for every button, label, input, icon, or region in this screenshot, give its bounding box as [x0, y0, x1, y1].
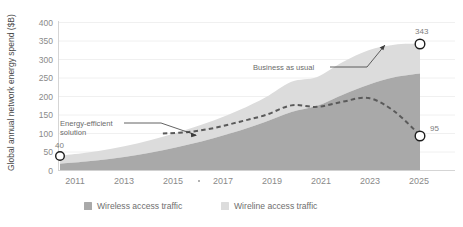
- legend-label-wireless: Wireless access traffic: [97, 201, 183, 211]
- plot-areas: [60, 44, 420, 171]
- y-tick-150: 150: [39, 110, 53, 120]
- annotation-energy-efficient-line1: Energy-efficient: [60, 119, 114, 128]
- y-axis-ticks: 400 350 300 250 200 150 100 50 0: [39, 18, 53, 176]
- y-tick-100: 100: [39, 129, 53, 139]
- x-tick-2015: 2015: [163, 176, 183, 186]
- marker-end-95: [415, 131, 425, 141]
- annotation-business-as-usual-label: Business as usual: [253, 63, 315, 72]
- x-tick-2023: 2023: [360, 176, 380, 186]
- x-tick-2025: 2025: [409, 176, 429, 186]
- legend-label-wireline: Wireline access traffic: [234, 201, 318, 211]
- y-tick-300: 300: [39, 55, 53, 65]
- energy-spend-area-chart: Global annual network energy spend ($B) …: [0, 0, 463, 227]
- point-label-40: 40: [55, 141, 64, 150]
- marker-start-40: [56, 152, 65, 161]
- point-label-95: 95: [430, 124, 439, 133]
- x-tick-2019: 2019: [262, 176, 282, 186]
- y-tick-0: 0: [48, 166, 53, 176]
- annotation-energy-efficient-line2: solution: [60, 128, 86, 137]
- chart-container: Global annual network energy spend ($B) …: [0, 0, 463, 227]
- legend-swatch-wireless: [84, 202, 92, 210]
- x-tick-2011: 2011: [65, 176, 84, 186]
- y-tick-50: 50: [44, 147, 54, 157]
- y-tick-200: 200: [39, 92, 53, 102]
- y-axis-title: Global annual network energy spend ($B): [6, 14, 16, 171]
- x-axis-separator-dot: [198, 180, 200, 182]
- x-axis-ticks: 2011 2013 2015 2017 2019 2021 2023 2025: [65, 176, 429, 186]
- y-tick-250: 250: [39, 73, 53, 83]
- x-tick-2013: 2013: [114, 176, 134, 186]
- x-tick-2017: 2017: [213, 176, 233, 186]
- y-tick-350: 350: [39, 36, 53, 46]
- legend: Wireless access traffic Wireline access …: [84, 201, 318, 211]
- marker-end-343: [415, 39, 425, 49]
- x-tick-2021: 2021: [311, 176, 331, 186]
- legend-swatch-wireline: [221, 202, 229, 210]
- point-label-343: 343: [415, 27, 429, 36]
- y-tick-400: 400: [39, 18, 53, 28]
